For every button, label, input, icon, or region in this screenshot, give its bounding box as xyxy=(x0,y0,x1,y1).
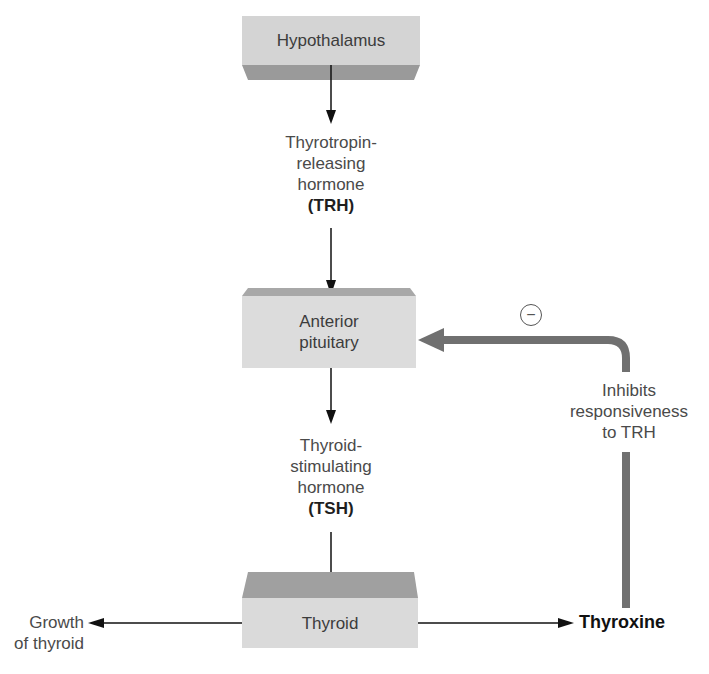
feedback-line3: to TRH xyxy=(602,423,656,442)
arrowhead-icon xyxy=(326,410,336,424)
tsh-abbr: (TSH) xyxy=(241,498,421,519)
growth-line1: Growth xyxy=(29,613,84,632)
tsh-line1: Thyroid- xyxy=(300,436,362,455)
trh-abbr: (TRH) xyxy=(241,195,421,216)
tsh-line3: hormone xyxy=(297,478,364,497)
trh-line1: Thyrotropin- xyxy=(285,133,377,152)
arrowhead-icon xyxy=(88,618,104,628)
thyroid-label: Thyroid xyxy=(242,613,418,634)
hypothalamus-label: Hypothalamus xyxy=(242,30,420,51)
arrowhead-icon xyxy=(326,110,336,124)
tsh-label: Thyroid- stimulating hormone (TSH) xyxy=(241,435,421,519)
anterior-pituitary-label: Anterior pituitary xyxy=(242,311,416,353)
thyroid-box xyxy=(242,572,418,648)
trh-line3: hormone xyxy=(297,175,364,194)
growth-of-thyroid-label: Growth of thyroid xyxy=(6,612,84,654)
feedback-arrow xyxy=(418,328,626,608)
feedback-line2: responsiveness xyxy=(570,402,688,421)
growth-line2: of thyroid xyxy=(14,634,84,653)
anterior-pituitary-line2: pituitary xyxy=(299,333,359,352)
arrowhead-icon xyxy=(558,618,574,628)
negative-feedback-icon: − xyxy=(520,304,542,326)
trh-label: Thyrotropin- releasing hormone (TRH) xyxy=(241,132,421,216)
thyroxine-label: Thyroxine xyxy=(579,612,665,633)
anterior-pituitary-line1: Anterior xyxy=(299,312,359,331)
feedback-line1: Inhibits xyxy=(602,381,656,400)
feedback-label: Inhibits responsiveness to TRH xyxy=(556,380,702,443)
trh-line2: releasing xyxy=(297,154,366,173)
tsh-line2: stimulating xyxy=(290,457,371,476)
